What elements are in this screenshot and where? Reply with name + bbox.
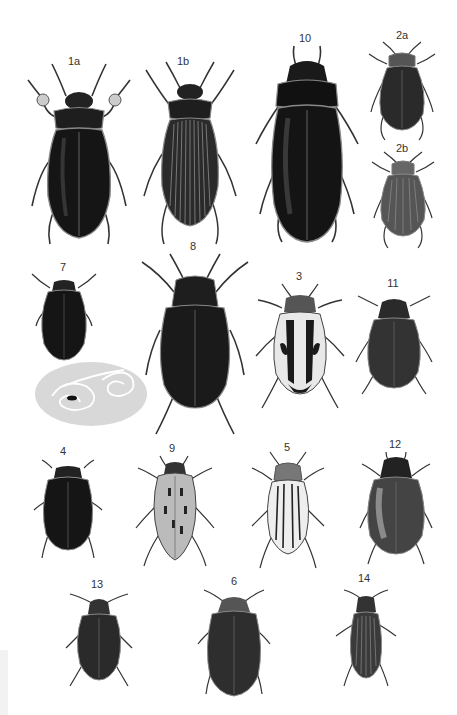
beetle-6	[196, 588, 272, 698]
beetle-13	[64, 592, 134, 688]
beetle-1a	[24, 56, 134, 246]
illustration-plate: 1a 1b 10 2a 2b 7 8 3 11 4 9 5 12 13 6 14	[0, 0, 457, 715]
label-4: 4	[48, 445, 78, 457]
label-3: 3	[284, 270, 314, 282]
beetle-3	[256, 284, 344, 414]
label-13: 13	[82, 578, 112, 590]
label-14: 14	[349, 572, 379, 584]
water-ripple-track	[34, 356, 148, 428]
beetle-14	[336, 590, 396, 690]
beetle-2a	[367, 42, 437, 142]
label-6: 6	[219, 575, 249, 587]
beetle-5	[250, 452, 326, 570]
label-10: 10	[290, 32, 320, 44]
beetle-12	[358, 452, 434, 564]
beetle-1b	[140, 56, 240, 246]
beetle-11	[354, 296, 434, 396]
beetle-4	[32, 460, 104, 560]
beetle-10	[252, 44, 362, 244]
label-12: 12	[380, 438, 410, 450]
beetle-8	[140, 250, 250, 435]
page-edge-shadow	[0, 650, 8, 715]
label-11: 11	[378, 277, 408, 289]
label-2a: 2a	[387, 29, 417, 41]
beetle-2b	[370, 152, 436, 248]
beetle-7	[30, 272, 98, 362]
beetle-9	[134, 456, 216, 568]
label-9: 9	[157, 442, 187, 454]
